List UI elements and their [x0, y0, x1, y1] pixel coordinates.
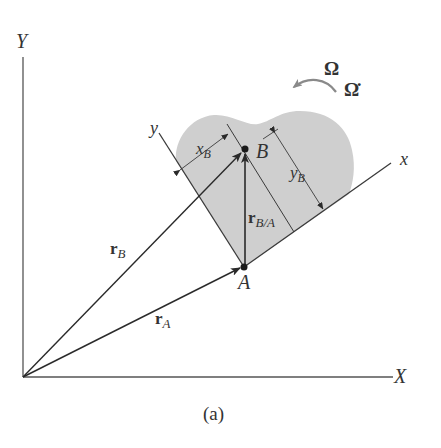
point-B-label: B	[256, 140, 268, 162]
rotation-arrow-icon	[294, 80, 336, 92]
Y-axis-label: Y	[16, 30, 29, 52]
x-axis-body-label: x	[399, 149, 408, 169]
rigid-body-shape	[176, 111, 354, 267]
point-B-dot	[242, 146, 249, 153]
figure-caption: (a)	[203, 403, 224, 425]
X-axis-label: X	[393, 365, 407, 387]
omega-label: Ω	[324, 58, 339, 79]
y-axis-body-label: y	[148, 118, 158, 138]
rB-label: rB	[110, 239, 126, 261]
point-A-dot	[241, 264, 248, 271]
rB-vector	[23, 153, 241, 377]
rA-vector	[23, 268, 240, 377]
rA-label: rA	[155, 309, 171, 331]
relative-motion-diagram: Y X y x A B rB rA rB/A xB yB Ω Ω̇ (a)	[0, 0, 441, 448]
point-A-label: A	[236, 271, 251, 293]
omega-dot-label: Ω̇	[344, 79, 361, 100]
